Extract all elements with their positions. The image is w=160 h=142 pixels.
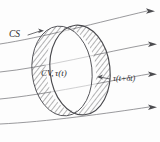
hatched-band	[0, 0, 160, 142]
cv-tau-arg: (t)	[58, 68, 67, 78]
tau-later-arg: (t+δt)	[116, 74, 136, 83]
tau-later-label: τ(t+δt)	[113, 74, 136, 83]
control-volume-figure: CS CV,τ(t) τ(t+δt)	[0, 0, 160, 142]
figure-canvas: CS CV,τ(t) τ(t+δt)	[0, 0, 160, 142]
cv-prefix-text: CV,	[41, 68, 54, 78]
control-surface-label: CS	[9, 29, 20, 39]
